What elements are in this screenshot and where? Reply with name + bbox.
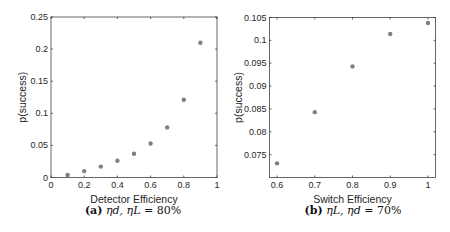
data-point — [388, 32, 392, 36]
axes-box — [270, 18, 436, 178]
y-tick-label: 0.05 — [30, 140, 48, 150]
data-point — [132, 152, 136, 156]
scatter-plot-a: 00.20.40.60.8100.050.10.150.20.25Detecto… — [0, 0, 225, 232]
y-tick-label: 0.1 — [35, 108, 48, 118]
chart-panel-a: 00.20.40.60.8100.050.10.150.20.25Detecto… — [0, 0, 225, 232]
caption-eq: = 70% — [364, 204, 401, 217]
data-point — [350, 64, 354, 68]
x-axis-label: Switch Efficiency — [313, 193, 392, 205]
x-tick-label: 0.8 — [346, 180, 359, 190]
x-tick-label: 0.6 — [271, 180, 284, 190]
scatter-plot-b: 0.60.70.80.910.0750.080.0850.090.0950.10… — [225, 0, 450, 232]
y-tick-label: 0.15 — [30, 76, 48, 86]
caption-a: (a) ηd, ηL = 80% — [85, 204, 181, 217]
y-axis-label: p(success) — [232, 72, 244, 123]
y-tick-label: 0.105 — [244, 13, 267, 23]
data-point — [115, 159, 119, 163]
x-tick-label: 1 — [425, 180, 430, 190]
y-tick-label: 0 — [43, 173, 48, 183]
data-point — [65, 173, 69, 177]
data-point — [313, 110, 317, 114]
x-tick-label: 0.6 — [144, 180, 157, 190]
data-point — [426, 21, 430, 25]
x-tick-label: 0.9 — [384, 180, 397, 190]
x-tick-label: 0.4 — [111, 180, 124, 190]
y-tick-label: 0.2 — [35, 44, 48, 54]
y-axis-label: p(success) — [16, 72, 28, 123]
y-tick-label: 0.09 — [249, 81, 267, 91]
data-point — [82, 169, 86, 173]
caption-label: (a) — [85, 204, 103, 217]
data-point — [148, 141, 152, 145]
y-tick-label: 0.1 — [254, 35, 267, 45]
data-point — [198, 40, 202, 44]
data-point — [99, 164, 103, 168]
x-tick-label: 0.8 — [178, 180, 191, 190]
caption-vars: ηd, ηL — [106, 204, 141, 217]
x-tick-label: 0 — [48, 180, 53, 190]
caption-b: (b) ηL, ηd = 70% — [305, 204, 402, 217]
y-tick-label: 0.085 — [244, 104, 267, 114]
data-point — [275, 161, 279, 165]
x-tick-label: 0.7 — [309, 180, 322, 190]
x-tick-label: 1 — [214, 180, 219, 190]
x-tick-label: 0.2 — [78, 180, 91, 190]
y-tick-label: 0.08 — [249, 127, 267, 137]
data-point — [182, 98, 186, 102]
caption-label: (b) — [305, 204, 323, 217]
caption-eq: = 80% — [144, 204, 181, 217]
y-tick-label: 0.095 — [244, 58, 267, 68]
caption-vars: ηL, ηd — [326, 204, 361, 217]
y-tick-label: 0.25 — [30, 12, 48, 22]
chart-panel-b: 0.60.70.80.910.0750.080.0850.090.0950.10… — [225, 0, 450, 232]
data-point — [165, 125, 169, 129]
x-axis-label: Detector Efficiency — [90, 193, 178, 205]
y-tick-label: 0.075 — [244, 150, 267, 160]
